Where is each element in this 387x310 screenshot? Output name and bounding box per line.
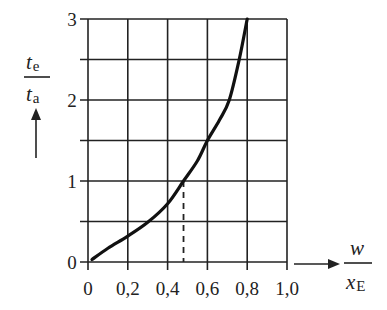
x-tick-label: 0 bbox=[83, 278, 93, 299]
tick-labels: 00,20,40,60,81,00123 bbox=[67, 9, 299, 299]
y-axis-arrowhead-icon bbox=[31, 108, 41, 120]
y-axis-label: te ta bbox=[24, 50, 50, 158]
y-tick-label: 1 bbox=[67, 171, 77, 192]
y-label-denominator: ta bbox=[26, 82, 40, 106]
grid bbox=[80, 19, 287, 270]
x-tick-label: 0,8 bbox=[235, 278, 259, 299]
data-curve bbox=[92, 19, 247, 260]
x-tick-label: 0,4 bbox=[156, 278, 180, 299]
x-tick-label: 1,0 bbox=[275, 278, 299, 299]
y-tick-label: 2 bbox=[67, 90, 77, 111]
y-tick-label: 3 bbox=[67, 9, 77, 30]
x-label-denominator: xE bbox=[345, 270, 366, 294]
chart: 00,20,40,60,81,00123 te ta w xE bbox=[0, 0, 387, 310]
y-label-numerator: te bbox=[26, 50, 40, 74]
x-axis-label: w xE bbox=[294, 236, 372, 294]
x-axis-arrowhead-icon bbox=[328, 259, 340, 269]
x-tick-label: 0,2 bbox=[116, 278, 140, 299]
y-tick-label: 0 bbox=[67, 252, 77, 273]
x-tick-label: 0,6 bbox=[196, 278, 220, 299]
x-label-numerator: w bbox=[350, 236, 364, 260]
